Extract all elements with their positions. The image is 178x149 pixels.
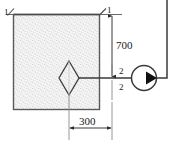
fluid-tank-body xyxy=(14,15,100,110)
dimension-label-700: 700 xyxy=(116,39,133,51)
section-label-1-left: 1 xyxy=(4,7,9,17)
discharge-pipe xyxy=(157,0,168,78)
section-label-2-bottom: 2 xyxy=(119,82,124,92)
diagram-canvas: 700 2 2 1 1 300 xyxy=(0,0,178,149)
engineering-diagram: 700 2 2 1 1 300 xyxy=(0,0,178,149)
section-label-2-top: 2 xyxy=(119,66,124,76)
section-label-1-right: 1 xyxy=(107,5,112,15)
dimension-label-300: 300 xyxy=(79,115,96,127)
